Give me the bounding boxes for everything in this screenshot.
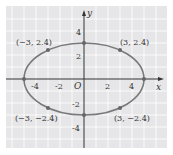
point-label: (3, 2.4) bbox=[120, 38, 149, 47]
y-tick: -4 bbox=[72, 124, 80, 133]
y-axis-label: y bbox=[86, 8, 93, 18]
x-tick: 4 bbox=[129, 82, 134, 91]
origin-label: O bbox=[74, 81, 82, 91]
x-axis-label: x bbox=[156, 82, 161, 92]
ellipse-diagram: y x O -4 -2 2 4 4 2 -2 -4 (−3, 2.4) (3, … bbox=[0, 0, 173, 155]
y-tick: -2 bbox=[72, 100, 80, 109]
x-tick: -2 bbox=[55, 82, 63, 91]
y-tick: 2 bbox=[76, 52, 81, 61]
point-label: (−3, 2.4) bbox=[16, 38, 52, 47]
point-label: (3, −2.4) bbox=[114, 114, 150, 123]
point-label: (−3, −2.4) bbox=[15, 114, 58, 123]
y-tick: 4 bbox=[76, 28, 81, 37]
x-tick: -4 bbox=[31, 82, 39, 91]
x-tick: 2 bbox=[105, 82, 110, 91]
